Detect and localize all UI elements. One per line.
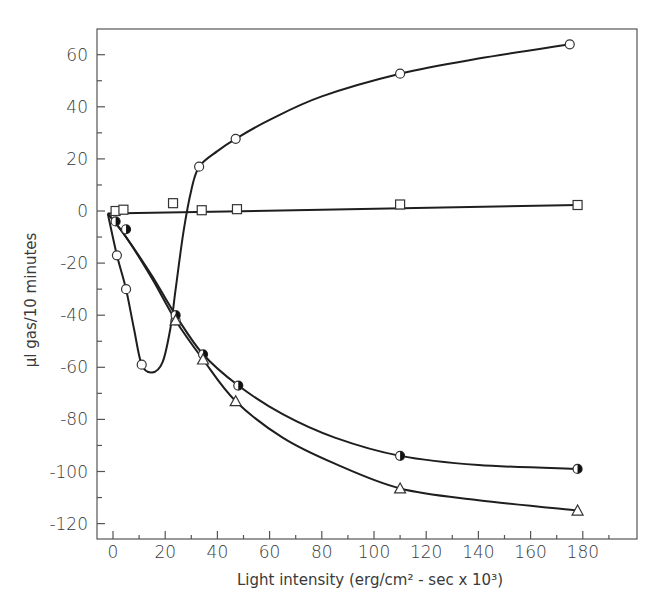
marker-open-circle [195,162,204,171]
marker-open-square [169,199,178,208]
marker-half-filled-circle [234,381,243,390]
plot-markers [111,40,583,515]
y-tick-label: -100 [49,462,88,482]
marker-open-circle [112,251,121,260]
x-tick-label: 80 [311,542,333,562]
marker-open-square [573,201,582,210]
x-tick-label: 100 [358,542,390,562]
curve-half-filled-circles [108,214,578,469]
y-tick-label: 0 [77,201,88,221]
x-tick-label: 20 [154,542,176,562]
y-tick-label: -20 [60,253,88,273]
x-axis-label: Light intensity (erg/cm² - sec x 10³) [237,571,503,589]
y-tick-label: -40 [60,305,88,325]
y-tick-label: -80 [60,409,88,429]
marker-open-circle [396,69,405,78]
marker-half-filled-circle [122,225,131,234]
y-tick-label: 60 [66,45,88,65]
x-tick-label: 40 [207,542,229,562]
x-tick-label: 180 [567,542,599,562]
x-tick-label: 160 [514,542,546,562]
marker-open-square [119,205,128,214]
marker-open-square [232,205,241,214]
marker-open-square [197,206,206,215]
y-tick-label: 20 [66,149,88,169]
curve-open-squares [108,205,578,214]
marker-half-filled-circle [396,451,405,460]
y-tick-label: -120 [49,514,88,534]
y-axis-label: μl gas/10 minutes [22,233,40,368]
chart-canvas: 020406080100120140160180 6040200-20-40-6… [0,0,663,614]
y-tick-label: 40 [66,97,88,117]
marker-open-circle [122,285,131,294]
marker-open-circle [231,134,240,143]
x-tick-label: 60 [259,542,281,562]
marker-half-filled-circle [111,217,120,226]
plot-frame [97,29,637,539]
marker-open-circle [137,360,146,369]
plot-curves [108,44,578,510]
marker-open-circle [565,40,574,49]
marker-open-square [396,200,405,209]
x-tick-label: 0 [108,542,119,562]
y-tick-label: -60 [60,357,88,377]
marker-half-filled-circle [573,464,582,473]
x-axis: 020406080100120140160180 [108,531,609,562]
x-tick-label: 140 [462,542,494,562]
x-tick-label: 120 [410,542,442,562]
